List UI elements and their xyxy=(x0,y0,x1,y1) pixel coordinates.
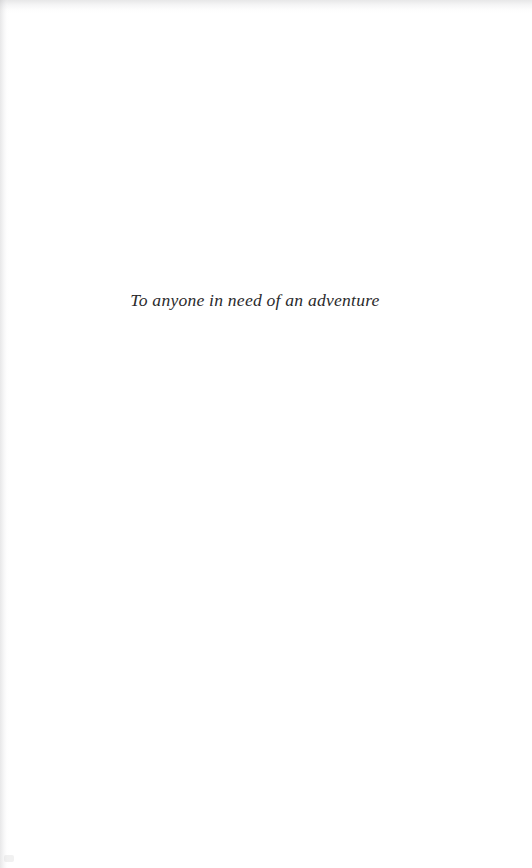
scan-edge-shadow-top xyxy=(0,0,532,14)
scan-speck-artifact xyxy=(4,855,14,862)
dedication-text: To anyone in need of an adventure xyxy=(130,288,379,312)
scan-edge-shadow-left xyxy=(0,0,9,868)
book-page: To anyone in need of an adventure xyxy=(0,0,532,868)
dedication-block: To anyone in need of an adventure xyxy=(0,270,532,329)
